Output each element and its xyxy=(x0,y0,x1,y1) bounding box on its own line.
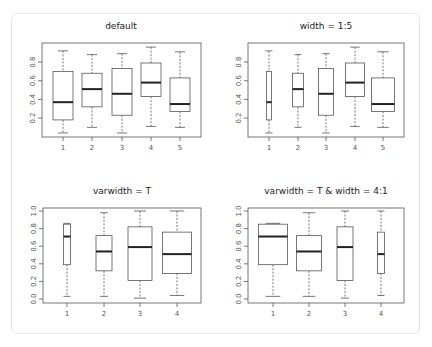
iqr-box xyxy=(64,224,71,264)
y-tick-label: 0.4 xyxy=(235,258,243,270)
x-tick-label: 5 xyxy=(178,144,182,152)
y-tick-label: 1.0 xyxy=(235,205,243,216)
x-tick-label: 1 xyxy=(65,310,69,318)
x-tick-label: 4 xyxy=(379,310,384,318)
box-5 xyxy=(372,52,395,128)
y-tick-label: 0.6 xyxy=(235,75,243,87)
y-tick-label: 0.2 xyxy=(235,112,243,123)
y-tick-label: 0.2 xyxy=(30,276,38,287)
y-tick-label: 0.8 xyxy=(235,56,243,67)
iqr-box xyxy=(170,78,190,112)
box-3 xyxy=(112,54,132,133)
y-tick-label: 0.8 xyxy=(30,223,38,234)
x-tick-label: 4 xyxy=(149,144,154,152)
box-4 xyxy=(378,211,385,295)
y-tick-label: 0.6 xyxy=(30,240,38,252)
iqr-box xyxy=(378,232,385,273)
iqr-box xyxy=(259,224,288,264)
y-tick-label: 0.2 xyxy=(29,112,37,123)
iqr-box xyxy=(319,69,334,116)
panel-varwidth: varwidth = T 0.00.20.40.60.81.01234 xyxy=(30,186,201,318)
box-3 xyxy=(337,211,353,298)
iqr-box xyxy=(53,71,73,120)
iqr-box xyxy=(128,227,152,281)
panel-title: width = 1:5 xyxy=(300,21,353,31)
box-3 xyxy=(128,211,152,298)
box-2 xyxy=(297,213,322,297)
box-1 xyxy=(266,51,273,133)
box-1 xyxy=(64,223,71,296)
iqr-box xyxy=(112,69,132,116)
x-tick-label: 2 xyxy=(296,144,300,152)
iqr-box xyxy=(267,71,272,120)
x-tick-label: 3 xyxy=(138,310,142,318)
x-tick-label: 1 xyxy=(271,310,275,318)
iqr-box xyxy=(163,232,192,273)
x-tick-label: 4 xyxy=(175,310,180,318)
y-tick-label: 0.0 xyxy=(235,293,243,304)
y-tick-label: 0.6 xyxy=(235,240,243,252)
y-tick-label: 0.6 xyxy=(29,75,37,87)
box-4 xyxy=(346,47,365,126)
box-2 xyxy=(82,55,102,128)
panel-title: varwidth = T xyxy=(93,186,152,196)
box-1 xyxy=(259,223,288,296)
x-tick-label: 3 xyxy=(120,144,124,152)
y-tick-label: 1.0 xyxy=(30,205,38,216)
boxplot-figure: default 0.20.40.60.812345 width = 1:5 0.… xyxy=(0,0,432,347)
y-tick-label: 0.4 xyxy=(29,93,37,105)
box-4 xyxy=(141,47,161,126)
box-3 xyxy=(319,54,334,133)
box-4 xyxy=(163,211,192,295)
iqr-box xyxy=(337,227,353,281)
y-tick-label: 0.8 xyxy=(235,223,243,234)
panel-varwidth-width-4-1: varwidth = T & width = 4:1 0.00.20.40.60… xyxy=(235,186,404,318)
y-tick-label: 0.0 xyxy=(30,293,38,304)
x-tick-label: 1 xyxy=(267,144,271,152)
panel-title: default xyxy=(105,21,137,31)
x-tick-label: 3 xyxy=(343,310,347,318)
y-tick-label: 0.4 xyxy=(235,93,243,105)
panel-width-1-5: width = 1:5 0.20.40.60.812345 xyxy=(235,21,404,152)
x-tick-label: 2 xyxy=(90,144,94,152)
x-tick-label: 4 xyxy=(353,144,358,152)
box-5 xyxy=(170,52,190,128)
y-tick-label: 0.4 xyxy=(30,258,38,270)
box-2 xyxy=(293,55,304,128)
iqr-box xyxy=(297,236,322,271)
iqr-box xyxy=(96,236,112,271)
x-tick-label: 3 xyxy=(324,144,328,152)
box-1 xyxy=(53,51,73,133)
y-tick-label: 0.8 xyxy=(29,56,37,67)
box-2 xyxy=(96,213,112,297)
x-tick-label: 2 xyxy=(102,310,106,318)
panel-title: varwidth = T & width = 4:1 xyxy=(264,186,387,196)
y-tick-label: 0.2 xyxy=(235,276,243,287)
panel-default: default 0.20.40.60.812345 xyxy=(29,21,201,152)
x-tick-label: 5 xyxy=(381,144,385,152)
x-tick-label: 1 xyxy=(61,144,65,152)
x-tick-label: 2 xyxy=(307,310,311,318)
iqr-box xyxy=(346,63,365,97)
iqr-box xyxy=(372,78,395,112)
iqr-box xyxy=(141,63,161,97)
